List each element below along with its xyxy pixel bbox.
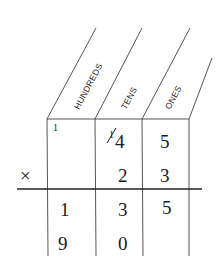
column-line-1 [47, 119, 48, 256]
partial1-hundreds: 1 [60, 199, 70, 220]
partial1-tens: 3 [118, 199, 128, 220]
column-line-2 [95, 119, 96, 256]
partial2-tens: 0 [118, 233, 128, 254]
partial2-hundreds: 9 [58, 233, 68, 254]
header-ones: ONES [163, 84, 184, 111]
multiplicand-ones: 5 [160, 131, 170, 152]
place-value-multiplication-diagram: HUNDREDS TENS ONES 1 1 4 5 × 2 3 1 3 5 9… [0, 0, 218, 268]
multiplicand-tens: 4 [115, 131, 125, 152]
header-tens: TENS [119, 85, 139, 111]
header-hundreds: HUNDREDS [72, 62, 105, 111]
multiplier-ones: 3 [160, 165, 170, 186]
partial1-ones: 5 [162, 197, 172, 218]
times-operator: × [20, 165, 31, 186]
header-divider-4 [189, 58, 212, 119]
carry-hundreds: 1 [53, 122, 58, 133]
multiplier-tens: 2 [118, 165, 128, 186]
column-line-3 [142, 119, 143, 256]
